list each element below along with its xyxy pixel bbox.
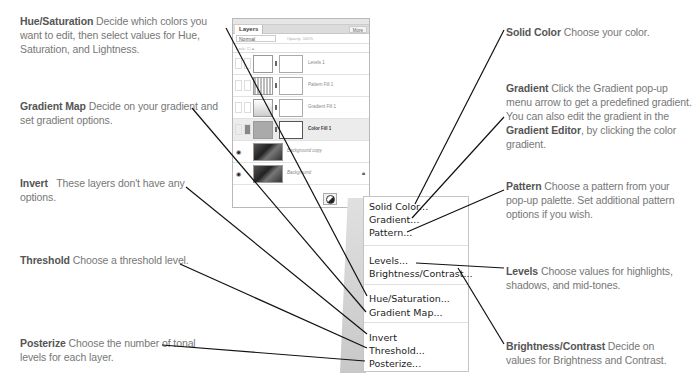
adjustment-layer-menu: Solid Color... Gradient... Pattern... Le… xyxy=(363,196,469,372)
callout-text: Choose your color. xyxy=(561,26,650,38)
callout-hue-saturation: Hue/Saturation Decide which colors you w… xyxy=(20,14,225,56)
layer-mask-thumbnail xyxy=(279,99,303,117)
visibility-toggle[interactable] xyxy=(235,58,242,69)
lock-icon: 🔒︎ xyxy=(362,170,365,177)
callout-title: Gradient xyxy=(506,82,548,94)
callout-title: Gradient Map xyxy=(20,100,86,112)
menu-separator xyxy=(364,245,468,246)
lock-transparency-icon[interactable]: ☐ xyxy=(247,46,251,51)
callout-gradient: Gradient Click the Gradient pop-up menu … xyxy=(506,81,696,151)
link-toggle[interactable] xyxy=(244,80,251,91)
lock-label: Lock: xyxy=(236,46,246,51)
link-toggle[interactable] xyxy=(244,102,251,113)
chain-icon xyxy=(275,105,277,110)
layer-row[interactable]: ◉ Background 🔒︎ xyxy=(233,163,369,185)
callout-title: Posterize xyxy=(20,337,66,349)
pattern-thumbnail-icon xyxy=(253,77,273,95)
tab-layers[interactable]: Layers xyxy=(235,25,263,34)
menu-separator xyxy=(364,322,468,323)
callout-posterize: Posterize Choose the number of tonal lev… xyxy=(20,336,200,364)
chain-icon xyxy=(275,61,277,66)
visibility-toggle[interactable] xyxy=(235,102,242,113)
layers-panel: Layers More Normal Opacity: 100% Lock: ☐… xyxy=(232,18,370,208)
layer-name: Levels 1 xyxy=(308,60,325,65)
menu-item-levels[interactable]: Levels... xyxy=(364,254,408,267)
link-toggle[interactable] xyxy=(244,124,251,135)
callout-title: Levels xyxy=(506,265,538,277)
photo-thumbnail xyxy=(253,165,283,183)
callout-title: Invert xyxy=(20,177,48,189)
gradient-thumbnail-icon xyxy=(253,99,273,117)
layer-name: Background xyxy=(287,170,311,175)
layer-row[interactable]: Levels 1 xyxy=(233,53,369,75)
menu-item-brightness-contrast[interactable]: Brightness/Contrast... xyxy=(364,267,472,280)
menu-separator xyxy=(364,284,468,285)
photo-thumbnail xyxy=(253,143,283,161)
eye-icon[interactable]: ◉ xyxy=(236,148,241,155)
callout-pattern: Pattern Choose a pattern from your pop-u… xyxy=(506,179,691,221)
chain-icon xyxy=(275,127,277,132)
color-fill-thumbnail-icon xyxy=(253,121,273,139)
menu-item-pattern[interactable]: Pattern... xyxy=(364,226,412,239)
callout-title: Solid Color xyxy=(506,26,561,38)
callout-title: Brightness/Contrast xyxy=(506,340,605,352)
layer-name: Color Fill 1 xyxy=(308,126,331,131)
eye-icon[interactable]: ◉ xyxy=(236,170,241,177)
menu-item-threshold[interactable]: Threshold... xyxy=(364,344,425,357)
half-circle-icon xyxy=(326,195,335,204)
layer-mask-thumbnail xyxy=(279,121,303,139)
layer-name: Background copy xyxy=(287,148,322,153)
chain-icon xyxy=(275,83,277,88)
opacity-field[interactable]: Opacity: 100% xyxy=(287,35,313,42)
callout-bold: Gradient Editor xyxy=(506,124,581,136)
more-button[interactable]: More xyxy=(349,26,367,33)
blend-mode-select[interactable]: Normal xyxy=(236,35,276,42)
menu-item-invert[interactable]: Invert xyxy=(364,331,397,344)
layer-row-selected[interactable]: Color Fill 1 xyxy=(233,119,369,141)
new-adjustment-layer-button[interactable] xyxy=(323,193,337,205)
callout-title: Hue/Saturation xyxy=(20,15,93,27)
layer-row[interactable]: Gradient Fill 1 xyxy=(233,97,369,119)
callout-title: Pattern xyxy=(506,180,541,192)
levels-thumbnail-icon xyxy=(253,55,273,73)
callout-text: Choose a threshold level. xyxy=(70,254,189,266)
layer-mask-thumbnail xyxy=(279,55,303,73)
layer-row[interactable]: Pattern Fill 1 xyxy=(233,75,369,97)
layer-name: Pattern Fill 1 xyxy=(308,82,333,87)
lock-row: Lock: ☐ 🔒︎ xyxy=(233,44,369,53)
menu-item-gradient[interactable]: Gradient... xyxy=(364,213,419,226)
callout-threshold: Threshold Choose a threshold level. xyxy=(20,253,220,267)
callout-solid-color: Solid Color Choose your color. xyxy=(506,25,696,39)
menu-item-gradient-map[interactable]: Gradient Map... xyxy=(364,306,442,319)
callout-gradient-map: Gradient Map Decide on your gradient and… xyxy=(20,99,220,127)
lock-all-icon[interactable]: 🔒︎ xyxy=(252,46,254,51)
link-toggle[interactable] xyxy=(244,58,251,69)
menu-item-solid-color[interactable]: Solid Color... xyxy=(364,200,428,213)
menu-item-posterize[interactable]: Posterize... xyxy=(364,357,421,370)
menu-item-hue-saturation[interactable]: Hue/Saturation... xyxy=(364,292,450,305)
callout-invert: Invert These layers don't have any optio… xyxy=(20,176,220,204)
visibility-toggle[interactable] xyxy=(235,124,242,135)
layer-name: Gradient Fill 1 xyxy=(308,104,336,109)
layer-mask-thumbnail xyxy=(279,77,303,95)
layer-row[interactable]: ◉ Background copy xyxy=(233,141,369,163)
callout-title: Threshold xyxy=(20,254,70,266)
visibility-toggle[interactable] xyxy=(235,80,242,91)
callout-brightness-contrast: Brightness/Contrast Decide on values for… xyxy=(506,339,686,367)
callout-levels: Levels Choose values for highlights, sha… xyxy=(506,264,686,292)
